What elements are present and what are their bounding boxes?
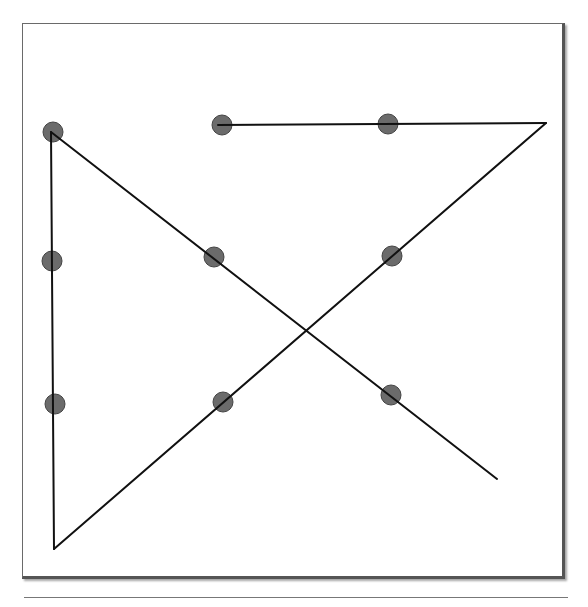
caption-separator — [24, 597, 568, 598]
nine-dot-diagram — [0, 0, 588, 607]
path-segment-2 — [51, 132, 54, 549]
figure-caption — [24, 601, 568, 607]
path-segment-3 — [54, 123, 546, 549]
dot-r2-c0 — [45, 394, 65, 414]
lines-layer — [51, 123, 546, 549]
path-segment-4 — [218, 123, 546, 125]
path-segment-1 — [51, 132, 497, 479]
